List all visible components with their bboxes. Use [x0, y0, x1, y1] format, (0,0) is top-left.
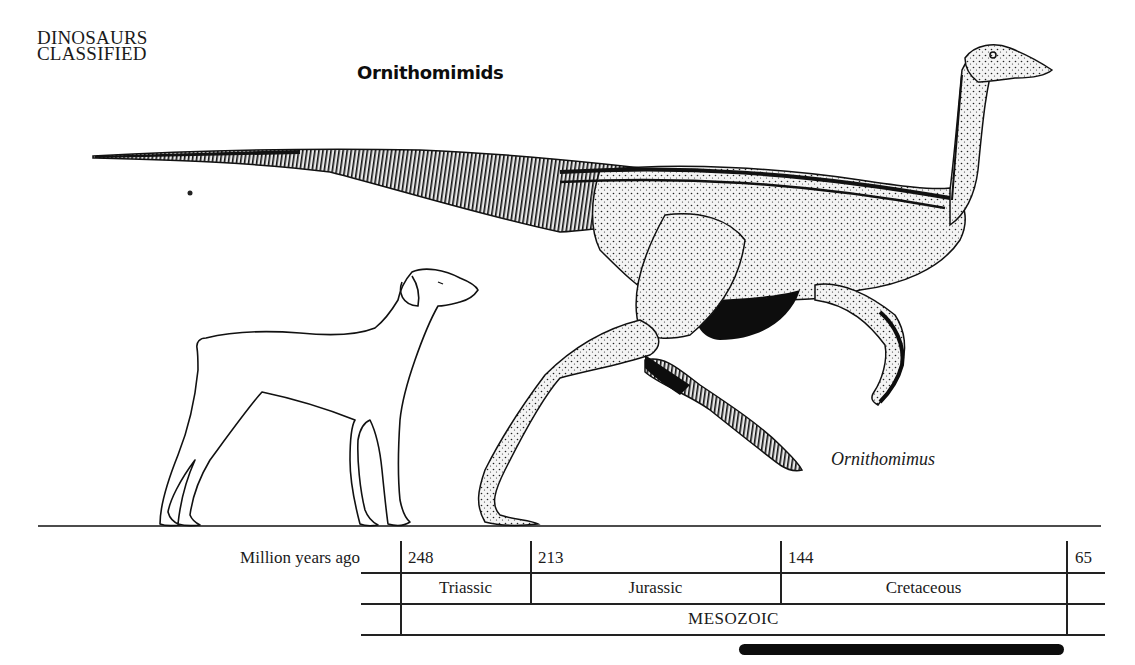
existence-range-bar [739, 644, 1064, 655]
dog-scale-outline [160, 269, 478, 526]
period-jurassic: Jurassic [531, 578, 780, 598]
row-divider-3 [361, 634, 1105, 636]
species-label: Ornithomimus [831, 449, 935, 470]
row-divider-2 [361, 603, 1105, 605]
period-triassic: Triassic [401, 578, 530, 598]
boundary-65 [1066, 541, 1068, 635]
tick-65: 65 [1075, 548, 1092, 568]
stray-dot [188, 191, 193, 196]
tick-248: 248 [408, 548, 434, 568]
tick-213: 213 [538, 548, 564, 568]
axis-label: Million years ago [150, 548, 360, 568]
period-cretaceous: Cretaceous [781, 578, 1066, 598]
row-divider-1 [361, 572, 1105, 574]
era-mesozoic: MESOZOIC [401, 609, 1066, 629]
tick-144: 144 [788, 548, 814, 568]
